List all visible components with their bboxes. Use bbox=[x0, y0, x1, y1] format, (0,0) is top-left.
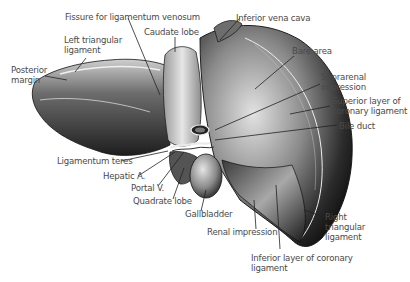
label-hepatic: Hepatic A. bbox=[103, 171, 145, 181]
label-ivc: Inferior vena cava bbox=[236, 13, 310, 23]
label-gallbladder: Gallbladder bbox=[185, 209, 232, 219]
label-portal: Portal V. bbox=[131, 183, 164, 193]
label-sup-coronary: Superior layer of coronary ligament bbox=[332, 96, 407, 116]
label-quadrate: Quadrate lobe bbox=[133, 196, 192, 206]
label-inf-coronary: Inferior layer of coronary ligament bbox=[251, 253, 353, 273]
label-teres: Ligamentum teres bbox=[57, 156, 133, 166]
label-suprarenal: Suprarenal impression bbox=[321, 72, 366, 92]
label-posterior: Posterior margin bbox=[11, 65, 47, 85]
label-renal: Renal impression bbox=[207, 227, 277, 237]
label-left-tri: Left triangular ligament bbox=[64, 35, 122, 55]
label-caudate: Caudate lobe bbox=[144, 27, 199, 37]
label-bile: Bile duct bbox=[339, 121, 375, 131]
label-right-tri: Right triangular ligament bbox=[325, 212, 365, 242]
left-lobe bbox=[32, 59, 170, 155]
label-fissure: Fissure for ligamentum venosum bbox=[65, 12, 200, 22]
label-bare: Bare area bbox=[292, 46, 332, 56]
